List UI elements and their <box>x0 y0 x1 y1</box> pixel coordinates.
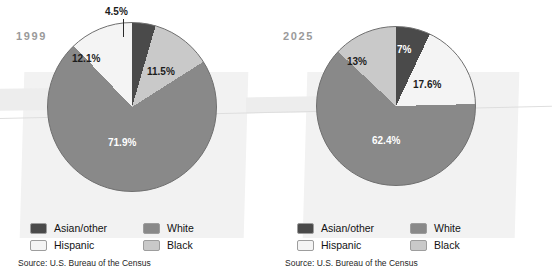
legend-swatch-asian-other-icon <box>30 223 47 234</box>
legend-label-asian-other: Asian/other <box>54 223 107 234</box>
legend-swatch-hispanic-icon <box>297 240 314 251</box>
legend-item-asian-other[interactable]: Asian/other <box>297 220 394 237</box>
slice-label-white-1999: 71.9% <box>108 137 136 148</box>
slice-label-black-1999: 11.5% <box>147 66 175 77</box>
callout-leader-line-1999 <box>123 19 124 37</box>
legend-swatch-black-icon <box>143 240 160 251</box>
legend-label-asian-other: Asian/other <box>321 223 374 234</box>
legend-swatch-black-icon <box>410 240 427 251</box>
slice-label-white-2025: 62.4% <box>372 135 400 146</box>
legend-label-white: White <box>434 223 461 234</box>
legend-2025: Asian/other White Hispanic Black <box>297 220 507 254</box>
pie-wrap-2025: 7% 17.6% 62.4% 13% <box>316 26 476 186</box>
legend-item-black[interactable]: Black <box>143 237 240 254</box>
year-label-1999: 1999 <box>16 30 47 42</box>
legend-swatch-white-icon <box>143 223 160 234</box>
pie-graphic-1999 <box>47 22 217 192</box>
slice-label-asian-other-1999: 4.5% <box>105 6 128 17</box>
slice-label-asian-other-2025: 7% <box>397 44 411 55</box>
legend-label-black: Black <box>434 240 460 251</box>
source-note-2025: Source: U.S. Bureau of the Census <box>285 258 418 268</box>
legend-label-hispanic: Hispanic <box>321 240 361 251</box>
legend-item-asian-other[interactable]: Asian/other <box>30 220 127 237</box>
legend-label-hispanic: Hispanic <box>54 240 94 251</box>
year-label-2025: 2025 <box>283 30 314 42</box>
legend-label-black: Black <box>167 240 193 251</box>
legend-item-white[interactable]: White <box>143 220 240 237</box>
legend-item-black[interactable]: Black <box>410 237 507 254</box>
pie-chart-2025: 2025 7% 17.6% 62.4% 13% Asian/other Whit… <box>271 0 542 274</box>
legend-swatch-hispanic-icon <box>30 240 47 251</box>
legend-swatch-white-icon <box>410 223 427 234</box>
legend-label-white: White <box>167 223 194 234</box>
legend-item-hispanic[interactable]: Hispanic <box>30 237 127 254</box>
pie-graphic-2025 <box>316 26 476 186</box>
slice-label-black-2025: 13% <box>347 56 367 67</box>
pie-wrap-1999: 4.5% 11.5% 71.9% 12.1% <box>47 22 217 192</box>
pie-chart-1999: 1999 4.5% 11.5% 71.9% 12.1% Asian/other … <box>0 0 271 274</box>
slice-label-hispanic-1999: 12.1% <box>72 53 100 64</box>
legend-item-white[interactable]: White <box>410 220 507 237</box>
legend-1999: Asian/other White Hispanic Black <box>30 220 240 254</box>
source-note-1999: Source: U.S. Bureau of the Census <box>18 258 151 268</box>
legend-swatch-asian-other-icon <box>297 223 314 234</box>
legend-item-hispanic[interactable]: Hispanic <box>297 237 394 254</box>
slice-label-hispanic-2025: 17.6% <box>413 79 441 90</box>
